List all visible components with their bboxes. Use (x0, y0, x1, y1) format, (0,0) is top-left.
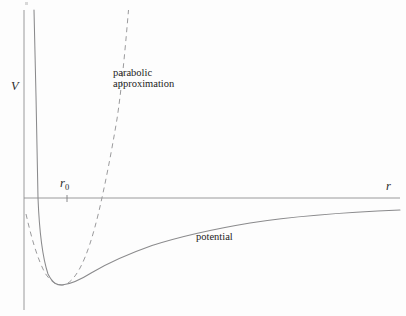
r0-subscript: 0 (65, 182, 69, 192)
potential-curve-label: potential (196, 231, 233, 242)
r0-tick-label: r0 (60, 177, 69, 192)
parabolic-approximation-label: parabolicapproximation (113, 67, 174, 90)
parabolic-label-line2: approximation (113, 78, 174, 89)
scan-speck (25, 2, 28, 5)
plot-canvas (0, 0, 406, 316)
parabolic-label-line1: parabolic (113, 67, 152, 78)
x-axis-label: r (386, 180, 391, 194)
potential-energy-figure: V r r0 parabolicapproximation potential (0, 0, 406, 316)
y-axis-label: V (11, 80, 19, 94)
potential-curve (34, 10, 400, 285)
